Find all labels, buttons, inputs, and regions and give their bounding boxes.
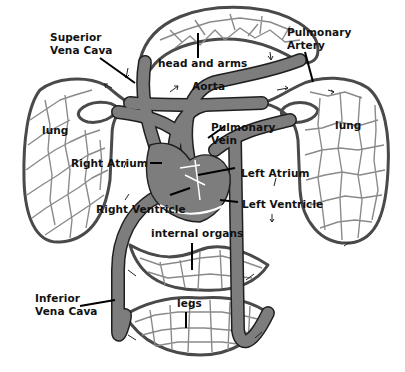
label-lung-right: lung	[335, 119, 361, 132]
label-pulmonary-vein: Pulmonary Vein	[211, 121, 275, 146]
label-right-ventricle: Right Ventricle	[96, 203, 186, 216]
label-inferior-vena-cava: Inferior Vena Cava	[35, 292, 98, 317]
label-right-atrium: Right Atrium	[71, 157, 148, 170]
label-legs: legs	[177, 297, 202, 310]
label-aorta: Aorta	[192, 80, 225, 93]
label-pulmonary-artery: Pulmonary Artery	[287, 26, 351, 51]
label-left-ventricle: Left Ventricle	[242, 198, 323, 211]
label-internal-organs: internal organs	[151, 227, 243, 240]
label-lung-left: lung	[42, 124, 68, 137]
label-superior-vena-cava: Superior Vena Cava	[50, 31, 113, 56]
label-head-and-arms: head and arms	[158, 57, 247, 70]
internal-organs-capillary-bed	[130, 245, 268, 290]
right-lung-capillary-bed	[262, 78, 388, 243]
label-left-atrium: Left Atrium	[241, 167, 310, 180]
